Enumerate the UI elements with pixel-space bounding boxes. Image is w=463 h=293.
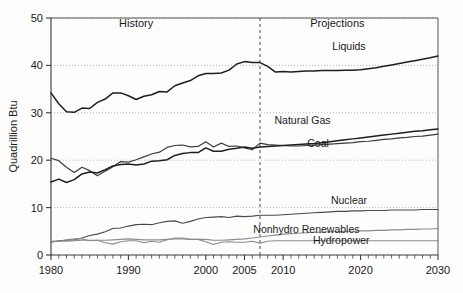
gridlines [51, 18, 438, 208]
series-line-liquids [51, 56, 438, 112]
y-tick-label-20: 20 [31, 154, 43, 166]
series-label-hydropower: Hydropower [313, 234, 370, 246]
x-axis-tick-labels: 1980199020002005201020202030 [39, 264, 450, 276]
x-tick-label-1980: 1980 [39, 264, 63, 276]
axis-ticks [46, 18, 438, 260]
series-label-coal: Coal [307, 137, 329, 149]
y-axis-title: Quadrillion Btu [7, 100, 19, 172]
axis-lines [51, 18, 438, 255]
x-tick-label-2005: 2005 [232, 264, 256, 276]
x-tick-label-2000: 2000 [194, 264, 218, 276]
y-axis-title-text: Quadrillion Btu [7, 100, 19, 172]
series-label-natural-gas: Natural Gas [275, 114, 331, 126]
x-tick-label-2030: 2030 [426, 264, 450, 276]
projections-annotation: Projections [310, 17, 365, 29]
y-tick-label-0: 0 [37, 249, 43, 261]
series-line-natural-gas [51, 134, 438, 176]
y-tick-label-10: 10 [31, 202, 43, 214]
x-tick-label-1990: 1990 [116, 264, 140, 276]
data-series-lines [51, 56, 438, 245]
chart-container: 01020304050 1980199020002005201020202030… [0, 0, 463, 293]
plot-border [51, 18, 438, 255]
series-label-nuclear: Nuclear [331, 194, 368, 206]
x-tick-label-2010: 2010 [271, 264, 295, 276]
plot-frame [51, 18, 438, 255]
history-annotation: History [119, 17, 154, 29]
series-line-nuclear [51, 210, 438, 243]
y-axis-tick-labels: 01020304050 [31, 12, 43, 261]
y-tick-label-30: 30 [31, 107, 43, 119]
series-label-liquids: Liquids [332, 40, 365, 52]
y-tick-label-40: 40 [31, 59, 43, 71]
x-tick-label-2020: 2020 [348, 264, 372, 276]
y-tick-label-50: 50 [31, 12, 43, 24]
series-line-coal [51, 129, 438, 183]
energy-consumption-line-chart: 01020304050 1980199020002005201020202030… [0, 0, 463, 293]
